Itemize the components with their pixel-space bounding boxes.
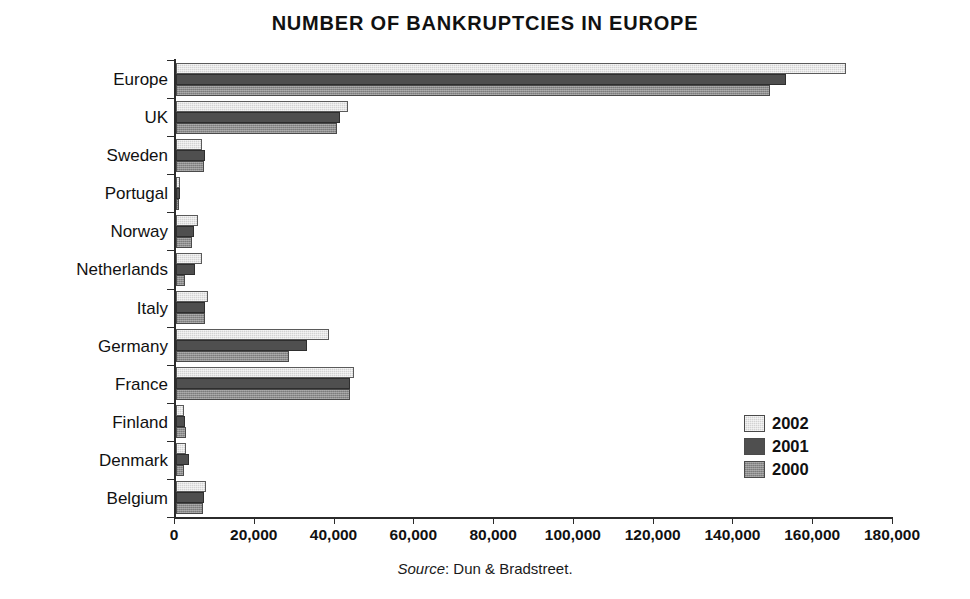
legend-label-2000: 2000: [772, 461, 809, 478]
bar-sweden-2001: [176, 150, 205, 161]
bar-denmark-2002: [176, 443, 186, 454]
bar-norway-2001: [176, 226, 194, 237]
bar-italy-2002: [176, 291, 208, 302]
source-note: Source: Dun & Bradstreet.: [0, 560, 970, 577]
legend-swatch-2001: [744, 438, 765, 455]
category-label-belgium: Belgium: [107, 489, 168, 506]
y-tick-mark: [167, 365, 175, 366]
bar-belgium-2000: [176, 503, 203, 514]
bar-uk-2002: [176, 101, 348, 112]
bar-netherlands-2001: [176, 264, 195, 275]
bar-denmark-2001: [176, 454, 189, 465]
y-tick-mark: [167, 517, 175, 518]
legend-item-2000[interactable]: 2000: [744, 459, 809, 479]
category-label-europe: Europe: [113, 71, 168, 88]
x-tick-label: 0: [170, 526, 179, 544]
x-tick-mark: [812, 517, 813, 524]
x-tick-label: 40,000: [310, 526, 357, 544]
bar-france-2002: [176, 367, 354, 378]
legend-item-2002[interactable]: 2002: [744, 413, 809, 433]
category-label-sweden: Sweden: [107, 147, 168, 164]
legend: 2002 2001 2000: [744, 413, 809, 482]
chart-title: NUMBER OF BANKRUPTCIES IN EUROPE: [0, 12, 970, 35]
bar-denmark-2000: [176, 465, 184, 476]
category-label-portugal: Portugal: [105, 185, 168, 202]
x-tick-label: 180,000: [864, 526, 920, 544]
x-tick-mark: [254, 517, 255, 524]
x-tick-label: 20,000: [230, 526, 277, 544]
bar-finland-2000: [176, 427, 186, 438]
bar-finland-2001: [176, 416, 185, 427]
category-label-germany: Germany: [98, 337, 168, 354]
y-tick-mark: [167, 98, 175, 99]
x-tick-mark: [573, 517, 574, 524]
category-label-france: France: [115, 375, 168, 392]
bar-portugal-2000: [176, 199, 179, 210]
legend-label-2001: 2001: [772, 438, 809, 455]
x-tick-label: 140,000: [704, 526, 760, 544]
bar-norway-2000: [176, 237, 192, 248]
bar-portugal-2002: [176, 177, 180, 188]
bar-belgium-2002: [176, 481, 206, 492]
bar-norway-2002: [176, 215, 198, 226]
x-tick-mark: [413, 517, 414, 524]
x-tick-mark: [493, 517, 494, 524]
bar-germany-2000: [176, 351, 289, 362]
x-tick-label: 60,000: [390, 526, 437, 544]
bankruptcies-bar-chart: NUMBER OF BANKRUPTCIES IN EUROPE 020,000…: [0, 0, 970, 599]
y-tick-mark: [167, 441, 175, 442]
bar-france-2001: [176, 378, 350, 389]
x-tick-mark: [892, 517, 893, 524]
bar-finland-2002: [176, 405, 184, 416]
source-label: Source: [397, 560, 445, 577]
bar-europe-2001: [176, 74, 786, 85]
bar-europe-2002: [176, 63, 846, 74]
bar-uk-2000: [176, 123, 337, 134]
category-label-finland: Finland: [112, 413, 168, 430]
y-tick-mark: [167, 403, 175, 404]
bar-germany-2001: [176, 340, 307, 351]
x-axis-line: [174, 517, 893, 519]
bar-belgium-2001: [176, 492, 204, 503]
bar-italy-2000: [176, 313, 205, 324]
y-tick-mark: [167, 60, 175, 61]
y-tick-mark: [167, 136, 175, 137]
category-label-norway: Norway: [110, 223, 168, 240]
category-label-italy: Italy: [137, 299, 168, 316]
bar-netherlands-2002: [176, 253, 202, 264]
category-label-uk: UK: [144, 109, 168, 126]
x-tick-label: 120,000: [625, 526, 681, 544]
category-label-denmark: Denmark: [99, 451, 168, 468]
bar-sweden-2002: [176, 139, 202, 150]
x-tick-mark: [653, 517, 654, 524]
bar-france-2000: [176, 389, 350, 400]
source-value: : Dun & Bradstreet.: [445, 560, 573, 577]
legend-item-2001[interactable]: 2001: [744, 436, 809, 456]
x-tick-mark: [334, 517, 335, 524]
legend-swatch-2000: [744, 461, 765, 478]
y-tick-mark: [167, 212, 175, 213]
legend-label-2002: 2002: [772, 415, 809, 432]
bar-portugal-2001: [176, 188, 180, 199]
y-tick-mark: [167, 174, 175, 175]
y-tick-mark: [167, 327, 175, 328]
bar-germany-2002: [176, 329, 329, 340]
bar-uk-2001: [176, 112, 340, 123]
x-tick-mark: [174, 517, 175, 524]
category-label-netherlands: Netherlands: [76, 261, 168, 278]
bar-italy-2001: [176, 302, 205, 313]
x-tick-label: 160,000: [784, 526, 840, 544]
y-tick-mark: [167, 479, 175, 480]
x-tick-label: 80,000: [469, 526, 516, 544]
bar-netherlands-2000: [176, 275, 185, 286]
bar-sweden-2000: [176, 161, 204, 172]
legend-swatch-2002: [744, 415, 765, 432]
y-tick-mark: [167, 289, 175, 290]
x-tick-mark: [732, 517, 733, 524]
y-tick-mark: [167, 250, 175, 251]
bar-europe-2000: [176, 85, 770, 96]
x-tick-label: 100,000: [545, 526, 601, 544]
